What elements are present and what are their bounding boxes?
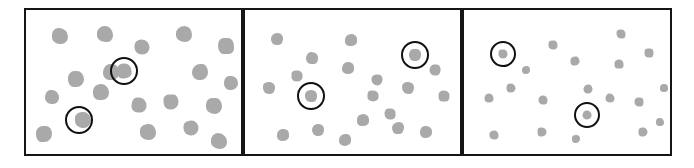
dot-marker-circle	[574, 102, 600, 128]
stimulus-dot	[176, 26, 192, 42]
stimulus-dot	[430, 65, 441, 76]
stimulus-dot	[656, 118, 664, 126]
stimulus-dot	[549, 41, 558, 50]
stimulus-dot	[135, 40, 150, 55]
stimulus-dot	[52, 28, 68, 44]
stimulus-dot	[68, 71, 84, 87]
stimulus-dot	[645, 49, 654, 58]
stimulus-dot	[538, 128, 547, 137]
stimulus-dot	[660, 84, 668, 92]
dot-marker-circle	[490, 41, 516, 67]
stimulus-dot	[617, 30, 626, 39]
stimulus-dot	[402, 82, 414, 94]
stimulus-dot	[192, 64, 208, 80]
stimulus-dot	[36, 126, 52, 142]
stimulus-dot	[277, 129, 289, 141]
stimulus-dot	[45, 90, 59, 104]
stimulus-dot	[97, 26, 113, 42]
stimulus-dot	[140, 124, 156, 140]
stimulus-dot	[522, 66, 530, 74]
stimulus-dot	[224, 76, 238, 90]
stimulus-panel-2	[243, 8, 462, 156]
stimulus-dot	[392, 122, 404, 134]
stimulus-dot	[271, 33, 283, 45]
stimulus-dot	[507, 84, 516, 93]
stimulus-dot	[218, 38, 234, 54]
stimulus-dot	[93, 84, 109, 100]
stimulus-dot	[439, 91, 450, 102]
stimulus-dot	[312, 124, 324, 136]
dot-marker-circle	[65, 106, 93, 134]
stimulus-dot	[132, 98, 147, 113]
stimulus-dot	[539, 96, 548, 105]
stimulus-dot	[164, 95, 179, 110]
stimulus-dot	[342, 62, 354, 74]
stimulus-figure	[0, 0, 694, 168]
stimulus-dot	[345, 34, 357, 46]
stimulus-dot	[584, 85, 593, 94]
stimulus-dot	[306, 52, 318, 64]
stimulus-dot	[635, 98, 644, 107]
stimulus-dot	[211, 133, 227, 149]
stimulus-dot	[339, 134, 351, 146]
stimulus-dot	[606, 94, 615, 103]
stimulus-dot	[639, 128, 648, 137]
stimulus-dot	[485, 94, 494, 103]
stimulus-dot	[357, 114, 369, 126]
stimulus-dot	[368, 91, 379, 102]
stimulus-panel-3	[462, 8, 672, 156]
stimulus-dot	[263, 82, 275, 94]
stimulus-dot	[615, 60, 624, 69]
stimulus-dot	[206, 98, 222, 114]
stimulus-dot	[372, 75, 383, 86]
stimulus-panel-1	[24, 8, 243, 156]
dot-marker-circle	[110, 57, 138, 85]
stimulus-dot	[184, 121, 199, 136]
dot-marker-circle	[297, 82, 325, 110]
dot-marker-circle	[401, 41, 429, 69]
stimulus-dot	[420, 126, 432, 138]
stimulus-dot	[385, 109, 396, 120]
stimulus-dot	[292, 71, 303, 82]
stimulus-dot	[571, 57, 580, 66]
stimulus-dot	[572, 135, 580, 143]
stimulus-dot	[490, 131, 499, 140]
